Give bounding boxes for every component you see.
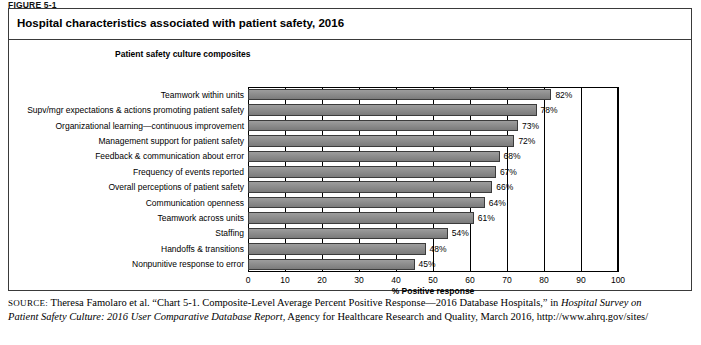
bar-row: Staffing54%: [248, 228, 618, 240]
bar: [248, 135, 514, 147]
y-axis-title: Patient safety culture composites: [115, 49, 251, 59]
x-tick-50: 50: [428, 275, 437, 285]
gridline-100: [618, 87, 619, 272]
bar-value-label: 67%: [500, 167, 517, 177]
source-text-2: , Agency for Healthcare Research and Qua…: [283, 311, 648, 322]
bar-value-label: 45%: [419, 259, 436, 269]
x-axis-title: % Positive response: [392, 286, 475, 296]
x-tick-80: 80: [539, 275, 548, 285]
bar-value-label: 72%: [518, 136, 535, 146]
bar-row: Supv/mgr expectations & actions promotin…: [248, 104, 618, 116]
source-italic-1: Hospital Survey on: [561, 297, 642, 308]
bar: [248, 104, 537, 116]
source-italic-2: Patient Safety Culture: 2016 User Compar…: [8, 311, 283, 322]
x-tick-60: 60: [465, 275, 474, 285]
bar-chart-plot: Teamwork within units82%Supv/mgr expecta…: [248, 87, 618, 272]
bar: [248, 151, 500, 163]
bar: [248, 120, 518, 132]
bar: [248, 228, 448, 240]
bar-value-label: 73%: [522, 121, 539, 131]
bar-value-label: 82%: [555, 90, 572, 100]
chart-title: Hospital characteristics associated with…: [17, 17, 344, 29]
x-tick-40: 40: [391, 275, 400, 285]
x-tick-70: 70: [502, 275, 511, 285]
bar: [248, 243, 426, 255]
x-tick-20: 20: [317, 275, 326, 285]
bar-row: Overall perceptions of patient safety66%: [248, 181, 618, 193]
bar-row: Feedback & communication about error68%: [248, 151, 618, 163]
x-tick-100: 100: [611, 275, 625, 285]
bar: [248, 212, 474, 224]
bar-value-label: 66%: [496, 182, 513, 192]
bar: [248, 259, 415, 271]
bar-value-label: 61%: [478, 213, 495, 223]
bar-value-label: 54%: [452, 228, 469, 238]
bar-category-label: Management support for patient safety: [98, 136, 244, 146]
bar-category-label: Feedback & communication about error: [95, 151, 244, 161]
bar-value-label: 48%: [430, 244, 447, 254]
bar-category-label: Supv/mgr expectations & actions promotin…: [27, 105, 244, 115]
bar-value-label: 64%: [489, 198, 506, 208]
bar-category-label: Frequency of events reported: [133, 167, 244, 177]
bar-category-label: Overall perceptions of patient safety: [108, 182, 244, 192]
bar: [248, 181, 492, 193]
bar-row: Teamwork within units82%: [248, 89, 618, 101]
bar: [248, 197, 485, 209]
bar-row: Frequency of events reported67%: [248, 166, 618, 178]
x-tick-10: 10: [280, 275, 289, 285]
x-tick-90: 90: [576, 275, 585, 285]
bar-category-label: Nonpunitive response to error: [132, 259, 244, 269]
figure-box: Hospital characteristics associated with…: [8, 8, 692, 291]
bar: [248, 89, 551, 101]
bar-category-label: Organizational learning—continuous impro…: [55, 121, 244, 131]
bar-row: Communication openness64%: [248, 197, 618, 209]
bar-category-label: Teamwork across units: [158, 213, 244, 223]
bar-row: Organizational learning—continuous impro…: [248, 120, 618, 132]
bar-row: Handoffs & transitions48%: [248, 243, 618, 255]
bar-value-label: 68%: [504, 151, 521, 161]
bar-row: Nonpunitive response to error45%: [248, 259, 618, 271]
bar-row: Teamwork across units61%: [248, 212, 618, 224]
source-note: SOURCE: Theresa Famolaro et al. “Chart 5…: [8, 296, 692, 323]
source-label: SOURCE:: [8, 298, 48, 308]
title-divider: [9, 39, 691, 40]
bar-row: Management support for patient safety72%: [248, 135, 618, 147]
bar: [248, 166, 496, 178]
bar-category-label: Staffing: [215, 228, 244, 238]
x-tick-30: 30: [354, 275, 363, 285]
bar-value-label: 78%: [541, 105, 558, 115]
x-tick-0: 0: [246, 275, 251, 285]
bar-category-label: Teamwork within units: [161, 90, 244, 100]
source-text-1: Theresa Famolaro et al. “Chart 5-1. Comp…: [48, 297, 561, 308]
bar-category-label: Handoffs & transitions: [161, 244, 244, 254]
bar-category-label: Communication openness: [146, 198, 244, 208]
